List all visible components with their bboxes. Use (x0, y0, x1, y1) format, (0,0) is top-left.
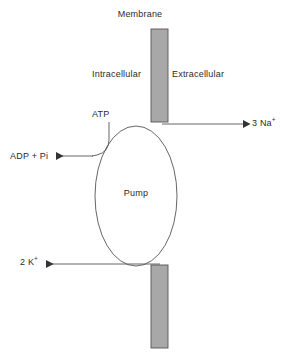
atp-label: ATP (92, 110, 109, 119)
sodium-efflux-text: 3 Na (252, 118, 272, 128)
intracellular-label: Intracellular (92, 70, 141, 79)
potassium-influx-text: 2 K (20, 257, 34, 267)
potassium-influx-label: 2 K+ (20, 258, 38, 267)
adp-pi-label: ADP + Pi (10, 152, 48, 161)
membrane-upper-segment (151, 29, 168, 122)
membrane-lower-segment (151, 265, 168, 348)
pump-diagram: Membrane Intracellular Extracellular ATP… (0, 0, 295, 358)
sodium-charge-superscript: + (272, 116, 276, 123)
extracellular-label: Extracellular (172, 70, 224, 79)
sodium-efflux-label: 3 Na+ (252, 119, 276, 128)
diagram-canvas (0, 0, 295, 358)
membrane-label: Membrane (118, 10, 163, 19)
pump-label: Pump (124, 189, 148, 198)
potassium-charge-superscript: + (34, 255, 38, 262)
